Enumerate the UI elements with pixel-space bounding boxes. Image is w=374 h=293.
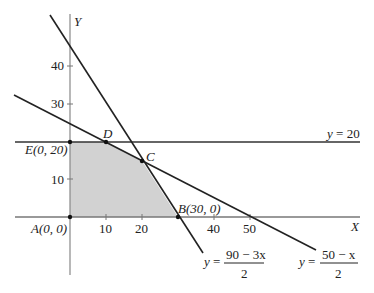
equation-steep-line: y = 90 − 3x 2: [202, 247, 266, 281]
y-tick-label-40: 40: [51, 58, 64, 73]
y-axis-label: Y: [74, 14, 83, 29]
point-c-label: C: [146, 149, 155, 164]
equation-steep-numerator: 90 − 3x: [226, 247, 266, 262]
svg-text:y =: y =: [202, 254, 220, 269]
feasible-region-diagram: Y X 40 30 10 10 20 40 50 A(0, 0) E(0, 20…: [0, 0, 374, 293]
equation-steep-denominator: 2: [241, 266, 248, 281]
point-e-label: E(0, 20): [24, 142, 68, 157]
y-tick-label-30: 30: [51, 96, 64, 111]
x-tick-label-40: 40: [207, 221, 220, 236]
x-tick-label-20: 20: [135, 221, 148, 236]
point-b-label: B(30, 0): [178, 201, 221, 216]
label-y20-value: 20: [347, 126, 360, 141]
equation-shallow-line: y = 50 − x 2: [297, 247, 358, 281]
equation-shallow-denominator: 2: [335, 266, 342, 281]
x-axis-label: X: [350, 219, 360, 234]
label-y-equals-20: y = 20: [325, 126, 360, 141]
y-tick-label-10: 10: [51, 172, 64, 187]
point-a-text: A(0, 0): [30, 221, 67, 236]
point-c-dot: [140, 159, 144, 163]
point-a-dot: [68, 215, 72, 219]
svg-text:y =: y =: [297, 254, 315, 269]
point-e-text: E(0, 20): [24, 142, 68, 157]
x-tick-label-10: 10: [99, 221, 112, 236]
point-a-label: A(0, 0): [30, 221, 67, 236]
feasible-region: [70, 142, 178, 217]
point-e-dot: [68, 140, 72, 144]
x-tick-label-50: 50: [243, 221, 256, 236]
point-d-label: D: [102, 126, 113, 141]
equation-shallow-numerator: 50 − x: [322, 247, 356, 262]
